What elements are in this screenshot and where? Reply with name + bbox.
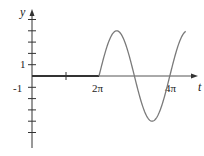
y-axis-label: y (19, 5, 26, 19)
y-tick-label-neg1: -1 (13, 82, 22, 94)
t-tick-label-2pi: 2π (92, 82, 104, 94)
y-axis-arrow-icon (30, 9, 35, 16)
t-axis-label: t (198, 80, 202, 94)
t-axis-arrow-icon (191, 74, 198, 79)
y-tick-label-1: 1 (20, 58, 26, 70)
chart-plot: y 1 -1 2π 4π t (0, 0, 204, 156)
